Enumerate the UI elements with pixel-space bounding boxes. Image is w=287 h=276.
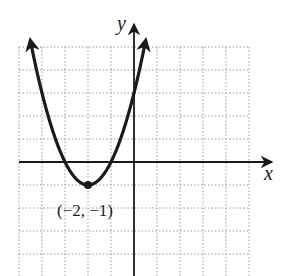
y-axis-label: y <box>115 12 126 35</box>
parabola-left-branch <box>31 41 89 185</box>
vertex-point <box>84 181 92 189</box>
vertex-label: (−2, −1) <box>57 201 113 220</box>
graph: y x (−2, −1) <box>0 0 287 276</box>
parabola-right-branch <box>88 41 146 185</box>
x-axis-label: x <box>263 162 273 184</box>
